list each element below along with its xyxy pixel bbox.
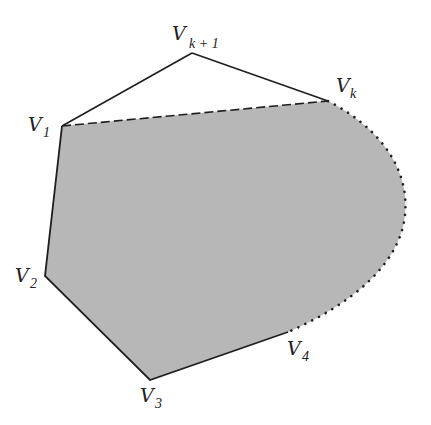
label-v-2: V 2 xyxy=(15,264,37,291)
label-v-1: V 1 xyxy=(28,113,50,140)
svg-text:V: V xyxy=(172,22,188,44)
svg-text:V: V xyxy=(15,264,31,286)
svg-text:V: V xyxy=(140,384,156,406)
label-v-k: V k xyxy=(336,74,357,101)
svg-text:3: 3 xyxy=(154,396,162,411)
svg-text:V: V xyxy=(28,113,44,135)
svg-text:k + 1: k + 1 xyxy=(189,36,219,51)
svg-text:2: 2 xyxy=(30,276,37,291)
svg-text:4: 4 xyxy=(302,349,309,364)
edge-vk1-vk xyxy=(192,53,328,101)
svg-text:1: 1 xyxy=(43,125,50,140)
polygon-diagram: V k + 1 V k V 1 V 2 V 3 V 4 xyxy=(0,0,431,425)
svg-text:k: k xyxy=(350,86,357,101)
label-v-3: V 3 xyxy=(140,384,162,411)
shaded-polygon-region xyxy=(45,101,405,380)
svg-text:V: V xyxy=(287,337,303,359)
label-v-4: V 4 xyxy=(287,337,309,364)
label-v-k-plus-1: V k + 1 xyxy=(172,22,219,51)
